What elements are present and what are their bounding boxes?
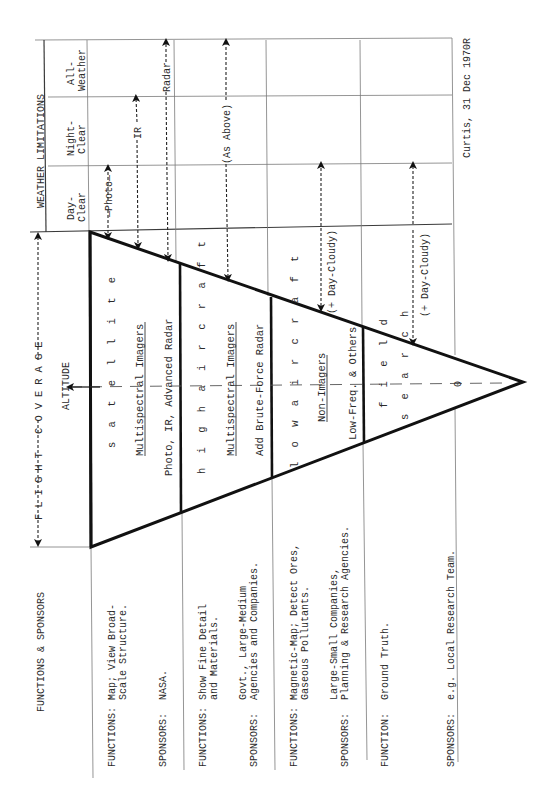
functions-text-0b: Scale Structure. — [118, 604, 129, 700]
functions-text-2b: Gaseous Pollutants. — [300, 586, 311, 700]
sponsors-text-2b: Planning & Research Agencies. — [340, 526, 351, 700]
tier-satellite: s a t e l l i t e Multispectral Imagers … — [106, 273, 175, 476]
functions-label-3: FUNCTION: — [380, 713, 391, 767]
radar-arrow-label: Radar — [162, 62, 173, 92]
altitude-indicator: ALTITUDE — [61, 362, 100, 410]
functions-text-1b: and Materials. — [209, 616, 220, 700]
sensor-heading-satellite: Multispectral Imagers — [134, 324, 146, 456]
sponsors-text-1b: Agencies and Companies. — [249, 562, 260, 700]
tier-low-aircraft: l o w a i r c r a f t Non-Imagers Low-Fr… — [289, 252, 359, 468]
night-clear-label-2: Clear — [77, 124, 88, 154]
platform-high-aircraft: h i g h a i r c r a f t — [196, 237, 208, 474]
functions-sponsors-heading: FUNCTIONS & SPONSORS — [36, 592, 47, 712]
functions-label-2: FUNCTIONS: — [289, 707, 300, 767]
sensor-heading-low-aircraft: Non-Imagers — [316, 353, 328, 422]
ir-arrow-label: IR — [133, 127, 144, 139]
tier-field-search: f i e l d s e a r c h 0 — [378, 307, 464, 420]
day-clear-label: Day- — [66, 196, 77, 220]
all-weather-label-2: Weather — [77, 49, 88, 91]
functions-text-2a: Magnetic-Map; Detect Ores, — [289, 544, 300, 700]
functions-label-1: FUNCTIONS: — [198, 707, 209, 767]
sensor-detail-low-aircraft: Low-Freq. & Others — [347, 327, 359, 440]
as-above-arrow-label: (As Above) — [222, 104, 233, 164]
all-weather-label: All- — [66, 61, 77, 85]
sponsors-label-1: SPONSORS: — [249, 713, 260, 767]
flight-coverage-arrow: FLIGHT COVERAGE — [33, 236, 45, 543]
platform-field-search-1: f i e l d — [378, 315, 390, 408]
functions-text-3: Ground Truth. — [380, 622, 391, 700]
weather-grid — [30, 38, 455, 355]
sensor-detail-high-aircraft: Add Brute-Force Radar — [254, 324, 266, 456]
photo-arrow-label: —Photo— — [104, 174, 115, 218]
functions-label-0: FUNCTIONS: — [107, 707, 118, 767]
platform-field-search-2: s e a r c h — [399, 307, 411, 420]
functions-text-0a: Map; View Broad- — [107, 604, 118, 700]
night-clear-label: Night- — [66, 120, 77, 156]
sponsors-text-1a: Govt., Large-Medium — [238, 586, 249, 700]
platform-low-aircraft: l o w a i r c r a f t — [289, 252, 301, 468]
sponsors-text-2a: Large-Small Companies, — [329, 568, 340, 700]
sensor-detail-satellite: Photo, IR, Advanced Radar — [163, 318, 175, 476]
sponsors-text-3: e.g. Local Research Team. — [446, 550, 457, 700]
day-cloudy-arrow-label-1: (+ Day-Cloudy) — [327, 230, 338, 314]
sensor-heading-high-aircraft: Multispectral Imagers — [225, 324, 237, 456]
platform-satellite: s a t e l l i t e — [106, 273, 118, 448]
flight-coverage-label: FLIGHT COVERAGE — [33, 335, 45, 520]
sponsors-text-0: NASA. — [158, 670, 169, 700]
sponsors-label-3: SPONSORS: — [446, 713, 457, 767]
day-cloudy-arrow-label-2: (+ Day-Cloudy) — [420, 233, 431, 317]
tier-high-aircraft: h i g h a i r c r a f t Multispectral Im… — [196, 237, 266, 474]
day-clear-label-2: Clear — [77, 192, 88, 222]
apex-zero: 0 — [453, 381, 464, 387]
functions-text-1a: Show Fine Detail — [198, 604, 209, 700]
attribution: Curtis, 31 Dec 1970R — [462, 38, 473, 158]
weather-limitations-label: WEATHER LIMITATIONS — [36, 94, 47, 208]
altitude-label: ALTITUDE — [61, 362, 72, 410]
sponsors-label-2: SPONSORS: — [340, 713, 351, 767]
flight-coverage-diagram: FLIGHT COVERAGE ALTITUDE WEATHER LIMITAT… — [0, 0, 545, 796]
sponsors-label-0: SPONSORS: — [158, 713, 169, 767]
functions-sponsors-section: FUNCTIONS & SPONSORS FUNCTIONS: Map; Vie… — [36, 526, 457, 767]
